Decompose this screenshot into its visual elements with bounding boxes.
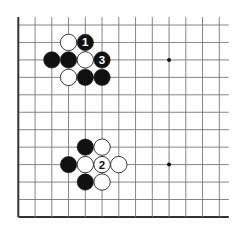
move-number-label: 1: [82, 36, 89, 48]
white-stone-circle: [94, 139, 110, 155]
black-stone: [77, 69, 93, 85]
white-stone-circle: [94, 174, 110, 190]
white-stone: [60, 69, 76, 85]
white-stone-circle: [77, 156, 93, 172]
board-grid: [18, 17, 229, 217]
black-stone: [44, 52, 60, 68]
black-stone: [60, 52, 76, 68]
move-number-label: 2: [99, 159, 105, 171]
black-stone-circle: [77, 174, 93, 190]
white-stone: [77, 156, 93, 172]
black-stone: [94, 69, 110, 85]
white-stone-circle: [77, 52, 93, 68]
star-point-icon: [167, 163, 171, 167]
black-stone-circle: [44, 52, 60, 68]
white-stone: [60, 34, 76, 50]
black-stone-circle: [60, 52, 76, 68]
black-stone-circle: [60, 156, 76, 172]
black-stone-circle: [94, 69, 110, 85]
star-point-icon: [167, 58, 171, 62]
white-stone: [94, 174, 110, 190]
white-stone: [111, 156, 127, 172]
move-number-label: 3: [99, 54, 105, 66]
white-stone-circle: [60, 34, 76, 50]
black-stone: [60, 156, 76, 172]
black-stone: [77, 174, 93, 190]
black-stone: [77, 139, 93, 155]
black-stone-circle: [77, 139, 93, 155]
white-stone-circle: [60, 69, 76, 85]
white-stone-circle: [111, 156, 127, 172]
white-stone-move-2: 2: [94, 156, 110, 172]
white-stone: [77, 52, 93, 68]
white-stone: [94, 139, 110, 155]
black-stone-move-3: 3: [94, 52, 110, 68]
black-stone-circle: [77, 69, 93, 85]
go-board-diagram: 132: [0, 0, 245, 228]
black-stone-move-1: 1: [77, 34, 93, 50]
